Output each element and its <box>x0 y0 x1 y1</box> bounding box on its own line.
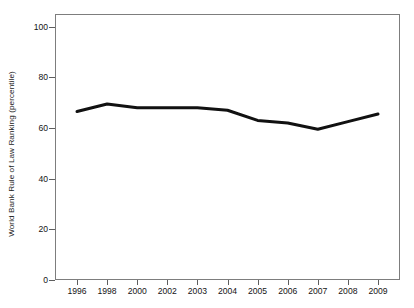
x-tick-mark <box>77 280 78 285</box>
y-tick-label: 60 <box>20 123 48 133</box>
x-tick-mark <box>167 280 168 285</box>
y-tick-mark <box>49 27 55 28</box>
y-tick-label: 100 <box>20 22 48 32</box>
x-tick-mark <box>378 280 379 285</box>
y-tick-label: 40 <box>20 174 48 184</box>
x-tick-mark <box>107 280 108 285</box>
y-tick-mark <box>49 229 55 230</box>
data-line-world-bank-rule-of-law <box>77 104 378 129</box>
x-tick-mark <box>288 280 289 285</box>
y-tick-label: 80 <box>20 72 48 82</box>
x-tick-mark <box>258 280 259 285</box>
chart-figure: World Bank Rule of Law Ranking (percenti… <box>0 0 414 308</box>
y-tick-mark <box>49 179 55 180</box>
x-tick-mark <box>228 280 229 285</box>
x-tick-mark <box>137 280 138 285</box>
y-tick-mark <box>49 77 55 78</box>
y-tick-label: 0 <box>20 275 48 285</box>
y-tick-label: 20 <box>20 224 48 234</box>
x-tick-label: 2009 <box>358 286 398 296</box>
y-axis-tick-labels: 020406080100 <box>18 0 48 308</box>
line-series-plot <box>55 14 400 280</box>
y-tick-mark <box>49 128 55 129</box>
x-tick-mark <box>197 280 198 285</box>
x-tick-mark <box>348 280 349 285</box>
x-tick-mark <box>318 280 319 285</box>
y-tick-mark <box>49 280 55 281</box>
